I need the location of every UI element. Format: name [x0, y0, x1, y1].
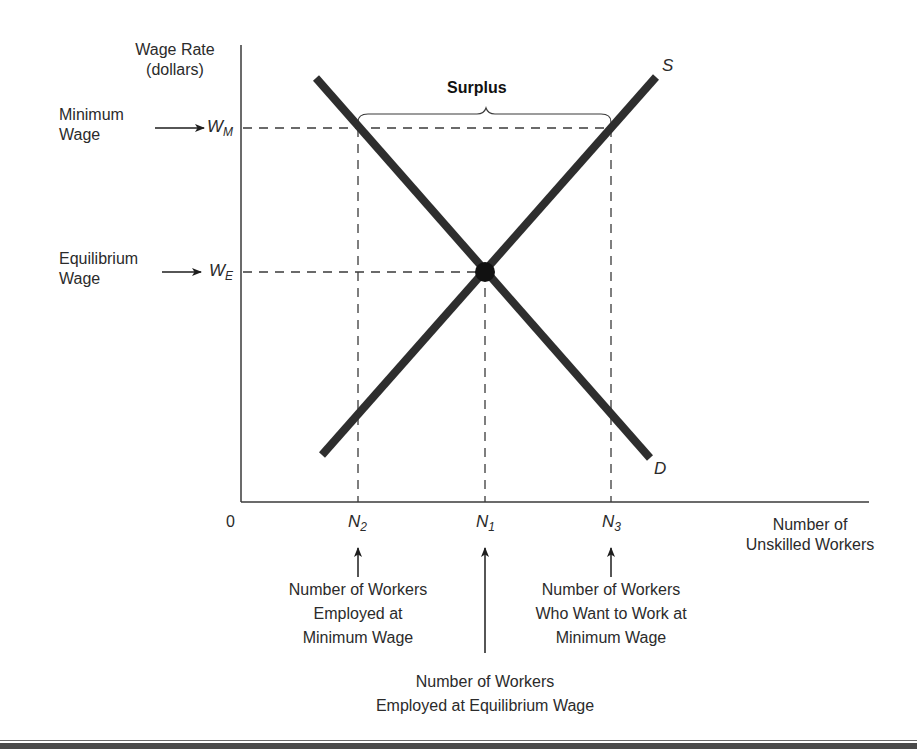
- n2-label: N2: [348, 512, 367, 537]
- surplus-label: Surplus: [447, 78, 507, 98]
- bottom-rule-thick: [0, 743, 917, 749]
- origin-label: 0: [226, 512, 235, 532]
- supply-label: S: [662, 56, 673, 76]
- n3-note: Number of Workers Who Want to Work at Mi…: [505, 578, 717, 650]
- demand-label: D: [654, 459, 666, 479]
- bottom-rule-thin: [0, 740, 917, 741]
- we-label: WE: [209, 261, 233, 286]
- y-axis-title: Wage Rate (dollars): [120, 40, 230, 80]
- equilibrium-wage-label: Equilibrium Wage: [59, 249, 138, 289]
- equilibrium-point: [475, 262, 495, 282]
- x-axis-title: Number of Unskilled Workers: [730, 515, 890, 555]
- surplus-brace: [358, 108, 611, 128]
- wm-label: WM: [207, 117, 233, 142]
- n1-note: Number of Workers Employed at Equilibriu…: [335, 670, 635, 718]
- n1-label: N1: [476, 512, 495, 537]
- minimum-wage-label: Minimum Wage: [59, 105, 124, 145]
- n3-label: N3: [602, 512, 621, 537]
- n2-note: Number of Workers Employed at Minimum Wa…: [258, 578, 458, 650]
- supply-demand-diagram: [0, 0, 917, 752]
- reference-lines: [243, 128, 611, 502]
